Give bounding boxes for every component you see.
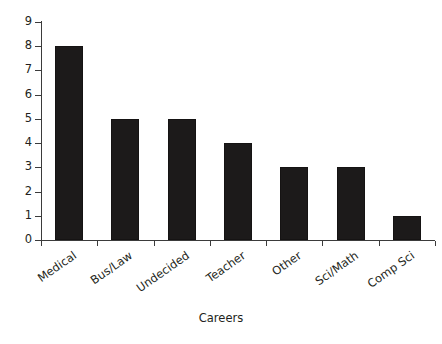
x-axis-line bbox=[41, 240, 435, 241]
y-tick-label: 4 bbox=[18, 137, 32, 149]
bar bbox=[55, 46, 83, 240]
y-tick-label: 0 bbox=[18, 234, 32, 246]
x-tick-mark bbox=[41, 241, 42, 246]
bar bbox=[393, 216, 421, 240]
y-tick-mark bbox=[35, 167, 41, 168]
x-tick-mark bbox=[154, 241, 155, 246]
y-tick-label: 6 bbox=[18, 89, 32, 101]
bar bbox=[337, 167, 365, 240]
y-tick-mark bbox=[35, 192, 41, 193]
y-tick-mark bbox=[35, 46, 41, 47]
bar-chart: 0123456789 MedicalBus/LawUndecidedTeache… bbox=[0, 0, 442, 344]
x-tick-mark bbox=[322, 241, 323, 246]
y-tick-label: 2 bbox=[18, 186, 32, 198]
y-tick-mark bbox=[35, 143, 41, 144]
y-tick-label: 8 bbox=[18, 40, 32, 52]
y-tick-label: 5 bbox=[18, 113, 32, 125]
x-tick-mark bbox=[266, 241, 267, 246]
y-tick-mark bbox=[35, 216, 41, 217]
x-tick-mark bbox=[435, 241, 436, 246]
y-tick-label: 9 bbox=[18, 16, 32, 28]
y-tick-label: 3 bbox=[18, 161, 32, 173]
x-tick-mark bbox=[97, 241, 98, 246]
y-axis-line bbox=[41, 21, 42, 241]
x-tick-mark bbox=[210, 241, 211, 246]
y-tick-mark bbox=[35, 70, 41, 71]
bar bbox=[280, 167, 308, 240]
y-tick-mark bbox=[35, 22, 41, 23]
y-tick-label: 1 bbox=[18, 210, 32, 222]
y-tick-label: 7 bbox=[18, 64, 32, 76]
y-tick-mark bbox=[35, 119, 41, 120]
y-tick-mark bbox=[35, 95, 41, 96]
bar bbox=[168, 119, 196, 240]
x-axis-title: Careers bbox=[0, 311, 442, 325]
x-tick-mark bbox=[379, 241, 380, 246]
bar bbox=[224, 143, 252, 240]
bar bbox=[111, 119, 139, 240]
